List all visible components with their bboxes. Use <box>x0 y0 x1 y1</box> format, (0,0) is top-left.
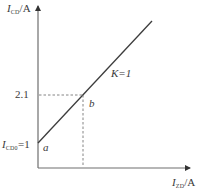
y-axis-label-unit: /A <box>20 2 31 14</box>
point-b-label: b <box>89 98 95 109</box>
x-axis-label-sub: ZD <box>176 183 185 189</box>
y-axis-label-sub: CD <box>11 9 20 15</box>
slope-label-text: K=1 <box>111 67 131 79</box>
intercept-label-sub: CD0 <box>6 145 18 151</box>
characteristic-line <box>38 21 152 143</box>
slope-label: K=1 <box>111 68 131 79</box>
intercept-label-value: =1 <box>18 138 30 150</box>
point-a-label: a <box>43 142 49 153</box>
tick-label-2-1: 2.1 <box>15 89 29 100</box>
intercept-label: ICD0=1 <box>2 139 30 154</box>
x-axis-label: IZD/A <box>172 177 195 191</box>
x-axis-label-unit: /A <box>184 176 195 188</box>
y-axis-label: ICD/A <box>7 3 31 18</box>
diagram-canvas <box>0 0 203 191</box>
